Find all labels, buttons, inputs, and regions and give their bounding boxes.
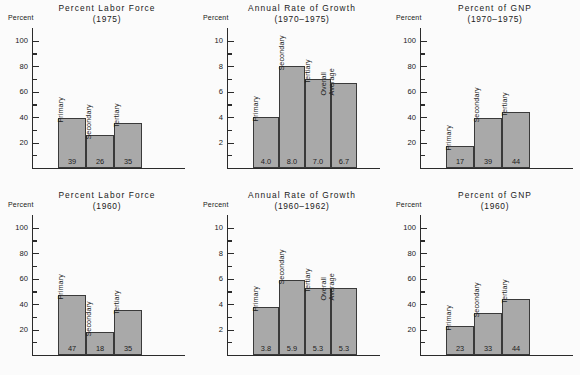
y-axis-tick-label: 6 — [195, 274, 223, 283]
y-axis-tick-label: 40 — [388, 300, 416, 309]
chart-title: Percent of GNP — [410, 190, 580, 201]
y-axis-minor-tick — [33, 155, 37, 156]
y-axis-tick-label: 60 — [388, 274, 416, 283]
chart-panel: Percent of GNP(1970–1975)Percent20406080… — [388, 0, 580, 187]
y-axis-line — [420, 215, 421, 355]
bar-category-label: Tertiary — [304, 268, 312, 292]
bar-category-label: Tertiary — [113, 291, 121, 315]
y-axis-tick-label: 2 — [195, 138, 223, 147]
y-axis-tick — [228, 66, 234, 67]
bar-category-label: Primary — [252, 96, 260, 121]
y-axis-tick — [33, 66, 39, 67]
bar-category-label: Tertiary — [113, 104, 121, 128]
bar-value-label: 6.7 — [331, 157, 357, 166]
chart-subtitle: (1960) — [22, 201, 192, 212]
y-axis-tick — [33, 279, 39, 280]
y-axis-tick — [421, 279, 427, 280]
y-axis-line — [227, 215, 228, 355]
y-axis-tick — [33, 304, 39, 305]
y-axis-tick-label: 10 — [195, 223, 223, 232]
y-axis-minor-tick — [33, 291, 37, 292]
y-axis-tick — [228, 41, 234, 42]
y-axis-tick — [228, 253, 234, 254]
y-axis-tick — [421, 253, 427, 254]
y-axis-tick — [228, 228, 234, 229]
x-axis-line — [227, 355, 380, 356]
bar-category-label: Secondary — [278, 249, 286, 284]
y-axis-minor-tick — [33, 266, 37, 267]
y-axis-minor-tick — [228, 79, 232, 80]
y-axis-tick-label: 6 — [195, 87, 223, 96]
y-axis-tick — [33, 117, 39, 118]
y-axis-line — [227, 28, 228, 168]
y-axis-minor-tick — [33, 317, 37, 318]
y-axis-tick-label: 80 — [388, 249, 416, 258]
chart-panel: Percent Labor Force(1975)Percent20406080… — [0, 0, 193, 187]
bar-value-label: 39 — [474, 157, 502, 166]
y-axis-label: Percent — [396, 201, 422, 208]
y-axis-tick-label: 60 — [0, 87, 28, 96]
x-axis-line — [32, 168, 185, 169]
x-axis-line — [227, 168, 380, 169]
chart-title: Percent of GNP — [410, 3, 580, 14]
bar-value-label: 44 — [502, 344, 530, 353]
y-axis-tick-label: 20 — [388, 138, 416, 147]
y-axis-tick — [421, 92, 427, 93]
y-axis-tick — [421, 117, 427, 118]
y-axis-tick — [228, 279, 234, 280]
chart-subtitle: (1960–1962) — [217, 201, 387, 212]
y-axis-tick-label: 100 — [0, 223, 28, 232]
y-axis-tick — [33, 253, 39, 254]
bar-category-label: Primary — [57, 97, 65, 122]
bar-value-label: 39 — [58, 157, 86, 166]
bar-category-label: Secondary — [85, 301, 93, 336]
bar-category-label: Primary — [57, 274, 65, 299]
bar-category-label: Secondary — [278, 36, 286, 71]
y-axis-tick-label: 20 — [388, 325, 416, 334]
bar-category-label: Tertiary — [304, 59, 312, 83]
bar-category-label: Primary — [252, 286, 260, 311]
chart-subtitle: (1970–1975) — [410, 14, 580, 25]
bar — [279, 66, 305, 168]
chart-subtitle: (1970–1975) — [217, 14, 387, 25]
bar-value-label: 47 — [58, 344, 86, 353]
y-axis-tick-label: 80 — [388, 62, 416, 71]
y-axis-minor-tick — [228, 53, 232, 54]
y-axis-minor-tick — [228, 104, 232, 105]
y-axis-tick — [421, 41, 427, 42]
y-axis-tick — [421, 228, 427, 229]
y-axis-tick — [33, 330, 39, 331]
chart-subtitle: (1975) — [22, 14, 192, 25]
chart-panel: Percent Labor Force(1960)Percent20406080… — [0, 187, 193, 374]
y-axis-tick — [421, 66, 427, 67]
y-axis-minor-tick — [33, 53, 37, 54]
y-axis-tick — [421, 304, 427, 305]
bar-value-label: 17 — [446, 157, 474, 166]
y-axis-line — [32, 215, 33, 355]
chart-title: Percent Labor Force — [22, 3, 192, 14]
y-axis-tick-label: 2 — [195, 325, 223, 334]
y-axis-minor-tick — [228, 317, 232, 318]
y-axis-minor-tick — [421, 53, 425, 54]
y-axis-tick-label: 100 — [388, 223, 416, 232]
y-axis-label: Percent — [8, 201, 34, 208]
bar-value-label: 35 — [114, 157, 142, 166]
bar-category-label: Primary — [445, 125, 453, 150]
y-axis-minor-tick — [33, 240, 37, 241]
chart-panel: Annual Rate of Growth(1960–1962)Percent2… — [195, 187, 388, 374]
bar-category-label: Secondary — [473, 282, 481, 317]
y-axis-minor-tick — [421, 266, 425, 267]
y-axis-minor-tick — [421, 317, 425, 318]
bar-value-label: 33 — [474, 344, 502, 353]
y-axis-tick-label: 4 — [195, 300, 223, 309]
y-axis-minor-tick — [228, 240, 232, 241]
y-axis-tick — [33, 143, 39, 144]
bar-value-label: 3.8 — [253, 344, 279, 353]
bar-value-label: 18 — [86, 344, 114, 353]
y-axis-tick-label: 20 — [0, 138, 28, 147]
x-axis-line — [420, 355, 573, 356]
y-axis-tick-label: 20 — [0, 325, 28, 334]
y-axis-tick-label: 40 — [0, 300, 28, 309]
y-axis-minor-tick — [228, 291, 232, 292]
y-axis-minor-tick — [421, 342, 425, 343]
